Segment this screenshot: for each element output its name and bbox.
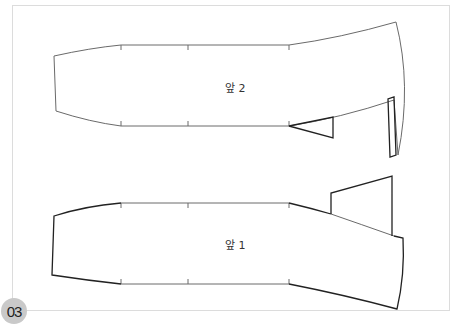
pattern-piece-front-1 <box>121 203 394 284</box>
dart-front-2 <box>289 97 396 157</box>
figure-number: 03 <box>7 303 22 320</box>
piece-label-front-2: 앞 2 <box>225 79 246 95</box>
figure-number-badge: 03 <box>1 298 27 324</box>
pattern-pieces-drawing <box>0 0 454 324</box>
piece-label-front-1: 앞 1 <box>225 236 246 252</box>
